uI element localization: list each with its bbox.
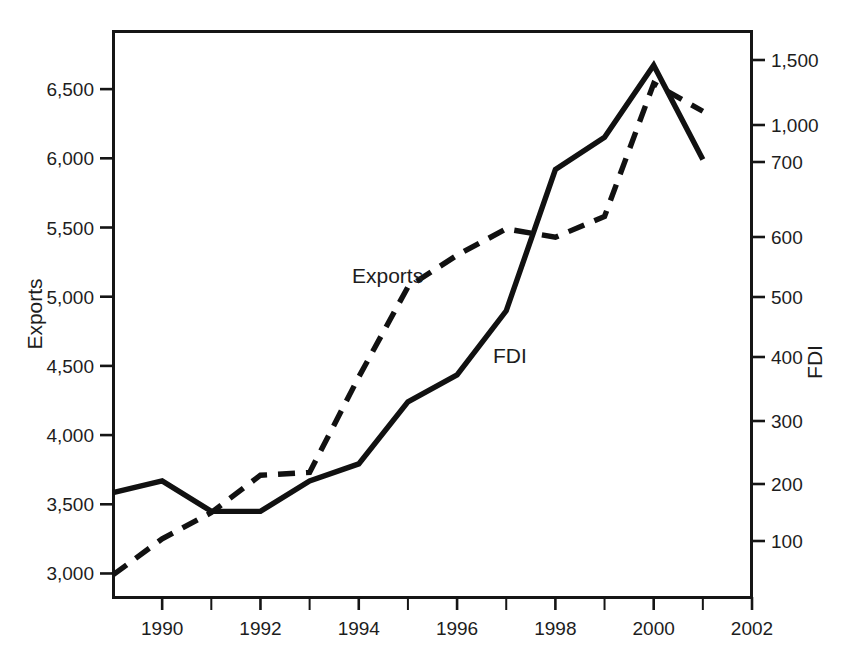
y2-tick-label: 700 [771, 152, 803, 173]
y2-tick-label: 500 [771, 287, 803, 308]
chart-figure: 3,0003,5004,0004,5005,0005,5006,0006,500… [0, 0, 848, 656]
y2-axis-title: FDI [803, 345, 826, 379]
x-tick-label: 2002 [731, 618, 773, 639]
x-tick-label: 2000 [633, 618, 675, 639]
exports-fdi-line-chart: 3,0003,5004,0004,5005,0005,5006,0006,500… [0, 0, 848, 656]
y-tick-label: 3,000 [46, 563, 94, 584]
series-annotation-fdi: FDI [493, 344, 527, 367]
y2-tick-label: 100 [771, 531, 803, 552]
x-tick-label: 1998 [534, 618, 576, 639]
series-annotation-exports: Exports [352, 264, 423, 287]
y2-tick-label: 300 [771, 411, 803, 432]
x-tick-label: 1990 [141, 618, 183, 639]
y-tick-label: 3,500 [46, 494, 94, 515]
y-axis-title: Exports [23, 278, 46, 349]
y-tick-label: 6,500 [46, 79, 94, 100]
y2-tick-label: 200 [771, 474, 803, 495]
y2-tick-label: 600 [771, 227, 803, 248]
y-tick-label: 4,500 [46, 356, 94, 377]
x-tick-label: 1992 [239, 618, 281, 639]
y2-tick-label: 1,500 [771, 50, 819, 71]
y-tick-label: 4,000 [46, 425, 94, 446]
y2-tick-label: 1,000 [771, 115, 819, 136]
y-tick-label: 5,500 [46, 218, 94, 239]
x-tick-label: 1994 [338, 618, 381, 639]
chart-background [0, 0, 848, 656]
y-tick-label: 5,000 [46, 287, 94, 308]
y-tick-label: 6,000 [46, 148, 94, 169]
y2-tick-label: 400 [771, 347, 803, 368]
x-tick-label: 1996 [436, 618, 478, 639]
